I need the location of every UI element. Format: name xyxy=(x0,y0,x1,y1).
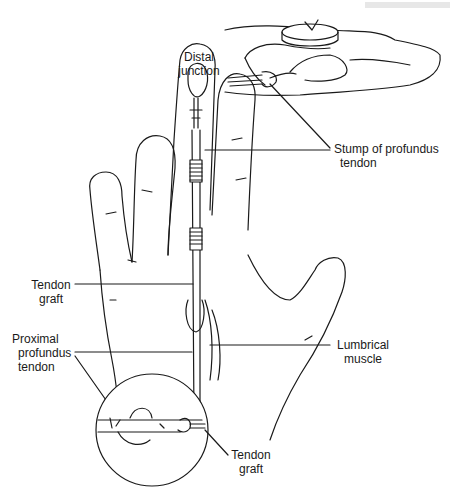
label-tendon-graft-upper: Tendon graft xyxy=(28,278,74,306)
label-distal-junction: Distal junction xyxy=(168,50,230,78)
label-stump-of-profundus-tendon: Stump of profundus tendon xyxy=(334,142,439,170)
tendon-graft xyxy=(186,63,220,420)
header-fragment xyxy=(365,2,450,8)
proximal-junction-inset xyxy=(96,374,208,486)
label-lumbrical-muscle: Lumbrical muscle xyxy=(332,338,394,366)
label-tendon-graft-lower: Tendon graft xyxy=(228,448,274,476)
label-proximal-profundus-tendon: Proximal profundus tendon xyxy=(12,332,71,374)
distal-junction-inset xyxy=(225,20,440,95)
